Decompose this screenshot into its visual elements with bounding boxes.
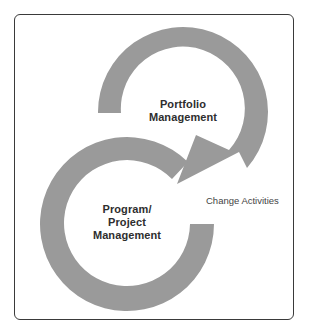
portfolio-management-label: Portfolio Management bbox=[143, 98, 223, 124]
portfolio-line-2: Management bbox=[143, 111, 223, 124]
program-line-2: Project bbox=[82, 216, 172, 229]
program-project-management-label: Program/ Project Management bbox=[82, 203, 172, 242]
cycle-diagram-graphic bbox=[0, 0, 310, 336]
portfolio-line-1: Portfolio bbox=[143, 98, 223, 111]
change-activities-label: Change Activities bbox=[206, 195, 279, 206]
program-line-3: Management bbox=[82, 229, 172, 242]
program-line-1: Program/ bbox=[82, 203, 172, 216]
